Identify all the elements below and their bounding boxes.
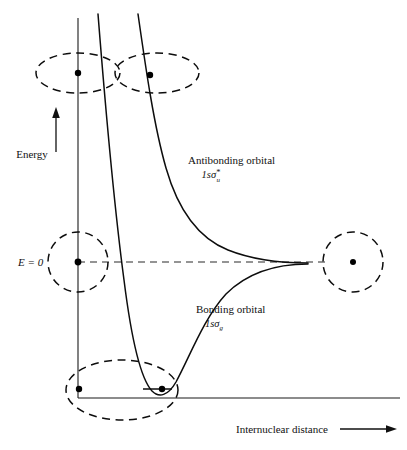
nucleus-top-right-icon bbox=[147, 72, 153, 78]
antibonding-term-superscript: * bbox=[216, 167, 220, 177]
antibonding-term-prefix: 1s bbox=[202, 169, 211, 180]
nucleus-top-left-icon bbox=[75, 70, 81, 76]
molecular-orbital-diagram: Energy E = 0 Antibonding orbital 1sσ*u B… bbox=[0, 0, 407, 450]
antibonding-orbital-curve bbox=[138, 14, 308, 263]
energy-axis-label: Energy bbox=[16, 148, 48, 160]
antibonding-term-subscript: u bbox=[216, 176, 220, 184]
bonding-orbital-curve bbox=[98, 14, 308, 395]
zero-energy-label: E = 0 bbox=[17, 256, 44, 268]
bonding-orbital-label: Bonding orbital bbox=[196, 303, 265, 315]
internuclear-distance-label: Internuclear distance bbox=[236, 423, 328, 435]
nucleus-mid-right-icon bbox=[350, 259, 356, 265]
up-arrow-icon bbox=[52, 107, 60, 118]
antibonding-orbital-label: Antibonding orbital bbox=[188, 154, 275, 166]
bonding-term-subscript: g bbox=[220, 324, 224, 332]
right-arrow-icon bbox=[386, 425, 397, 432]
bonding-orbital-term-symbol: 1sσg bbox=[205, 318, 224, 332]
antibonding-orbital-term-symbol: 1sσ*u bbox=[202, 167, 221, 185]
nucleus-bottom-left-icon bbox=[76, 386, 82, 392]
bonding-term-prefix: 1s bbox=[205, 318, 214, 329]
antibonding-orbital-right-lobe-icon bbox=[115, 53, 199, 93]
nucleus-mid-left-icon bbox=[75, 259, 82, 266]
nucleus-bottom-right-icon bbox=[159, 386, 165, 392]
